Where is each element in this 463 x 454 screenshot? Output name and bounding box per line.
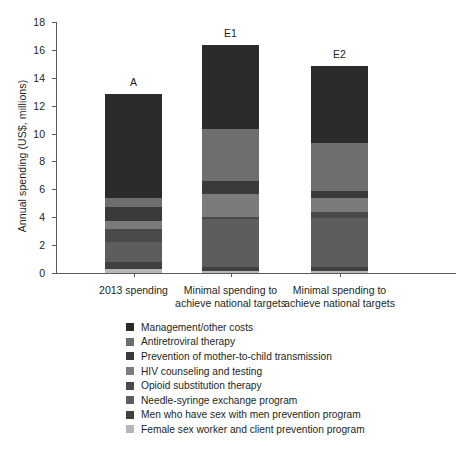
legend-item-label: Needle-syringe exchange program — [141, 395, 297, 406]
bar-segment — [105, 262, 162, 269]
legend-swatch-icon — [126, 411, 134, 419]
y-tick-label: 16 — [33, 44, 45, 56]
y-tick: 18 — [52, 22, 56, 23]
bar-segment — [105, 242, 162, 262]
y-tick-label: 4 — [39, 211, 45, 223]
chart-legend: Management/other costsAntiretroviral the… — [126, 320, 456, 437]
legend-swatch-icon — [126, 367, 134, 375]
bar-segment — [202, 129, 259, 181]
y-tick: 4 — [52, 217, 56, 218]
bar-e2 — [311, 66, 368, 273]
legend-item[interactable]: Female sex worker and client prevention … — [126, 422, 456, 437]
bar-segment — [202, 45, 259, 129]
bar-segment — [202, 271, 259, 273]
legend-swatch-icon — [126, 382, 134, 390]
bar-segment — [311, 271, 368, 273]
bar-segment — [105, 269, 162, 273]
y-tick: 0 — [52, 273, 56, 274]
legend-item-label: Antiretroviral therapy — [141, 336, 235, 347]
y-tick-label: 18 — [33, 16, 45, 28]
bar-segment — [202, 219, 259, 267]
y-tick: 2 — [52, 245, 56, 246]
y-tick-label: 6 — [39, 183, 45, 195]
bar-segment — [311, 198, 368, 213]
y-tick: 10 — [52, 134, 56, 135]
bar-caption-e2: E2 — [280, 48, 400, 60]
y-tick: 12 — [52, 106, 56, 107]
stacked-bar-chart: Annual spending (US$, millions) 02468101… — [0, 0, 463, 454]
y-tick-label: 10 — [33, 128, 45, 140]
legend-item-label: HIV counseling and testing — [141, 366, 262, 377]
bar-a — [105, 94, 162, 273]
legend-item[interactable]: Management/other costs — [126, 320, 456, 335]
bar-segment — [105, 198, 162, 207]
y-tick: 6 — [52, 189, 56, 190]
bar-segment — [105, 221, 162, 229]
legend-item-label: Prevention of mother-to-child transmissi… — [141, 351, 332, 362]
legend-swatch-icon — [126, 396, 134, 404]
x-category-label-line: achieve national targets — [265, 297, 415, 310]
x-category-label: Minimal spending toachieve national targ… — [265, 284, 415, 309]
bar-caption-a: A — [74, 76, 194, 88]
legend-item-label: Female sex worker and client prevention … — [141, 424, 365, 435]
bar-segment — [311, 143, 368, 191]
legend-item-label: Men who have sex with men prevention pro… — [141, 409, 361, 420]
legend-item[interactable]: Needle-syringe exchange program — [126, 393, 456, 408]
bar-segment — [105, 229, 162, 242]
legend-swatch-icon — [126, 323, 134, 331]
legend-item-label: Management/other costs — [141, 322, 253, 333]
bar-segment — [105, 207, 162, 222]
x-category-label-line: Minimal spending to — [265, 284, 415, 297]
x-tick — [231, 273, 232, 277]
legend-swatch-icon — [126, 352, 134, 360]
y-tick-label: 0 — [39, 267, 45, 279]
legend-swatch-icon — [126, 338, 134, 346]
bar-segment — [311, 218, 368, 268]
y-tick-label: 14 — [33, 72, 45, 84]
bar-e1 — [202, 45, 259, 273]
y-tick: 14 — [52, 78, 56, 79]
legend-item[interactable]: HIV counseling and testing — [126, 364, 456, 379]
legend-item[interactable]: Antiretroviral therapy — [126, 335, 456, 350]
legend-item[interactable]: Prevention of mother-to-child transmissi… — [126, 349, 456, 364]
bar-segment — [311, 66, 368, 143]
bar-segment — [202, 194, 259, 216]
y-axis-title: Annual spending (US$, millions) — [16, 56, 28, 256]
x-tick — [134, 273, 135, 277]
bar-caption-e1: E1 — [171, 27, 291, 39]
y-tick-label: 8 — [39, 155, 45, 167]
bar-segment — [105, 94, 162, 198]
x-tick — [340, 273, 341, 277]
legend-swatch-icon — [126, 425, 134, 433]
legend-item-label: Opioid substitution therapy — [141, 380, 262, 391]
legend-item[interactable]: Men who have sex with men prevention pro… — [126, 408, 456, 423]
plot-area: 024681012141618 AE1E2 — [56, 22, 456, 273]
legend-item[interactable]: Opioid substitution therapy — [126, 378, 456, 393]
y-tick: 16 — [52, 50, 56, 51]
y-tick-label: 2 — [39, 239, 45, 251]
bar-segment — [202, 181, 259, 194]
y-tick: 8 — [52, 161, 56, 162]
x-axis-line — [56, 273, 456, 274]
y-tick-label: 12 — [33, 100, 45, 112]
y-axis-line — [56, 22, 57, 274]
